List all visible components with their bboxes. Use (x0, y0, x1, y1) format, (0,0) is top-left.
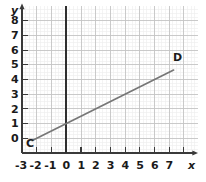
x-tick-label-neg2: -2 (30, 160, 42, 171)
point-label-c: C (26, 138, 34, 149)
graph-figure: y x 8 7 6 5 4 3 2 1 0 -3 -2 -1 0 1 2 3 4… (0, 0, 206, 182)
x-tick-label-1: 1 (77, 160, 85, 171)
x-axis (22, 147, 198, 156)
y-tick-label-0: 0 (11, 133, 19, 144)
x-tick-label-4: 4 (122, 160, 130, 171)
point-label-d: D (173, 52, 182, 63)
y-tick-label-5: 5 (11, 59, 19, 70)
y-tick-label-7: 7 (11, 30, 19, 41)
coordinate-plane (0, 0, 206, 182)
x-tick-label-7: 7 (166, 160, 174, 171)
y-tick-label-8: 8 (11, 15, 19, 26)
x-tick-label-0: 0 (63, 160, 71, 171)
x-tick-label-neg1: -1 (44, 160, 56, 171)
x-axis-label: x (188, 160, 195, 171)
y-tick-label-4: 4 (11, 74, 19, 85)
x-tick-label-neg3: -3 (15, 160, 27, 171)
y-tick-label-2: 2 (11, 104, 19, 115)
y-tick-label-1: 1 (11, 118, 19, 129)
y-tick-label-6: 6 (11, 45, 19, 56)
x-tick-label-3: 3 (107, 160, 115, 171)
x-tick-label-2: 2 (92, 160, 100, 171)
y-axis-rail (19, 4, 28, 154)
y-tick-label-3: 3 (11, 89, 19, 100)
x-tick-label-6: 6 (151, 160, 159, 171)
x-tick-label-5: 5 (136, 160, 144, 171)
